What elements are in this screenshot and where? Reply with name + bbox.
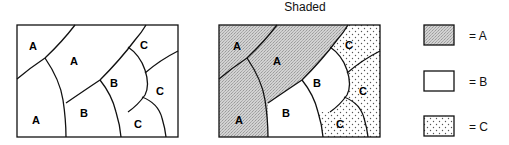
svg-text:A: A — [235, 114, 243, 126]
legend-label-a: = A — [469, 29, 487, 43]
svg-text:B: B — [313, 77, 321, 89]
legend-label-b: = B — [469, 75, 487, 89]
legend-swatch-a — [424, 25, 454, 45]
svg-text:A: A — [32, 114, 40, 126]
svg-text:A: A — [29, 40, 37, 52]
unshaded-map — [17, 25, 178, 137]
svg-text:B: B — [110, 77, 118, 89]
svg-text:C: C — [359, 85, 367, 97]
maps-svg: A A A B B C C C A A A B B C C C — [0, 0, 509, 145]
shaded-map — [219, 25, 380, 137]
svg-text:C: C — [345, 39, 353, 51]
svg-text:B: B — [282, 107, 290, 119]
legend-label-c: = C — [469, 120, 488, 134]
map-coloring-figure: Shaded — [0, 0, 509, 145]
svg-text:A: A — [233, 40, 241, 52]
legend-swatch-b — [424, 71, 454, 91]
svg-text:C: C — [140, 39, 148, 51]
svg-text:A: A — [273, 55, 281, 67]
svg-text:C: C — [134, 118, 142, 130]
legend-swatch-c — [424, 116, 454, 136]
svg-text:A: A — [70, 55, 78, 67]
svg-text:C: C — [336, 118, 344, 130]
svg-text:C: C — [156, 85, 164, 97]
svg-text:B: B — [80, 107, 88, 119]
legend — [424, 25, 454, 136]
